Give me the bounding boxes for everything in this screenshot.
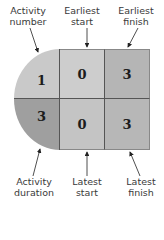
label-latest-start: Latest start — [67, 176, 107, 198]
arrow-activity-duration — [33, 149, 40, 176]
label-line: Activity — [12, 176, 56, 187]
label-line: duration — [12, 187, 56, 198]
arrow-latest-finish — [130, 152, 140, 176]
label-latest-finish: Latest finish — [121, 176, 161, 198]
arrow-activity-number — [30, 28, 38, 52]
label-line: Latest — [67, 176, 107, 187]
label-activity-duration: Activity duration — [12, 176, 56, 198]
arrow-earliest-finish — [128, 28, 138, 47]
label-line: start — [67, 187, 107, 198]
label-line: finish — [121, 187, 161, 198]
label-line: Latest — [121, 176, 161, 187]
